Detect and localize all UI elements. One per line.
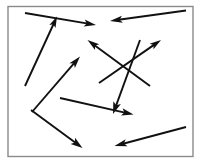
arrow-diagram-canvas <box>0 0 202 163</box>
figure-root <box>0 0 202 163</box>
